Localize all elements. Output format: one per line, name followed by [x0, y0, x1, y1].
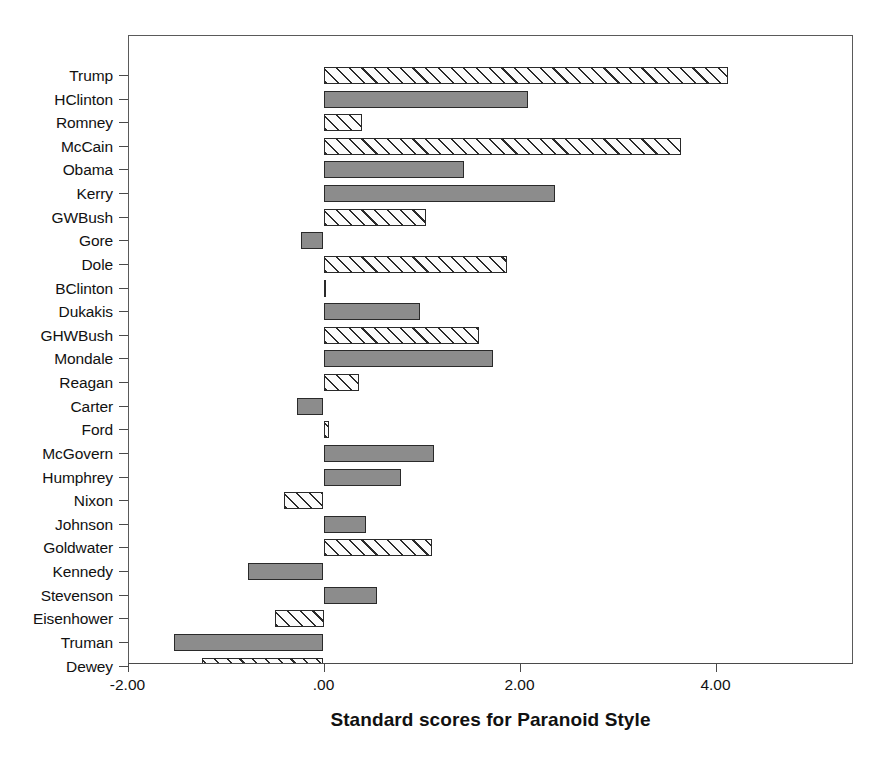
category-label-humphrey: Humphrey	[42, 469, 113, 486]
category-tick	[119, 571, 128, 572]
category-label-row: Nixon	[74, 492, 128, 509]
category-label-reagan: Reagan	[59, 374, 113, 391]
category-label-row: Carter	[71, 398, 128, 415]
bar-ford	[324, 421, 330, 438]
category-label-mondale: Mondale	[54, 350, 113, 367]
category-label-row: Dole	[82, 256, 128, 273]
bar-gwbush	[324, 209, 427, 226]
category-label-gwbush: GWBush	[52, 209, 113, 226]
category-label-row: Johnson	[55, 516, 128, 533]
x-tick	[128, 663, 129, 672]
category-label-ghwbush: GHWBush	[40, 327, 113, 344]
bar-goldwater	[324, 539, 433, 556]
category-tick	[119, 453, 128, 454]
bar-dukakis	[324, 303, 420, 320]
category-label-row: Goldwater	[43, 539, 128, 556]
category-label-truman: Truman	[61, 634, 113, 651]
category-label-nixon: Nixon	[74, 492, 113, 509]
category-label-row: Dukakis	[59, 303, 128, 320]
category-label-row: Humphrey	[42, 469, 128, 486]
category-label-row: McGovern	[42, 445, 128, 462]
category-tick	[119, 429, 128, 430]
bar-bclinton	[324, 280, 326, 297]
bar-kennedy	[248, 563, 323, 580]
x-tick	[324, 663, 325, 672]
category-tick	[119, 99, 128, 100]
bar-romney	[324, 114, 362, 131]
category-tick	[119, 217, 128, 218]
x-tick	[520, 663, 521, 672]
bar-hclinton	[324, 91, 529, 108]
category-label-row: Dewey	[66, 658, 128, 675]
category-label-eisenhower: Eisenhower	[33, 610, 113, 627]
x-axis-title: Standard scores for Paranoid Style	[128, 709, 853, 731]
bar-carter	[297, 398, 323, 415]
category-label-mccain: McCain	[61, 138, 113, 155]
category-tick	[119, 595, 128, 596]
bar-stevenson	[324, 587, 378, 604]
category-tick	[119, 382, 128, 383]
category-label-row: BClinton	[55, 280, 128, 297]
category-tick	[119, 311, 128, 312]
category-axis: TrumpHClintonRomneyMcCainObamaKerryGWBus…	[0, 35, 128, 664]
category-label-row: GHWBush	[40, 327, 128, 344]
category-tick	[119, 240, 128, 241]
category-label-goldwater: Goldwater	[43, 539, 113, 556]
bar-obama	[324, 161, 464, 178]
bar-reagan	[324, 374, 359, 391]
bars-layer	[128, 35, 853, 664]
bar-truman	[174, 634, 324, 651]
category-label-row: Stevenson	[41, 587, 128, 604]
category-label-row: HClinton	[54, 91, 128, 108]
bar-eisenhower	[275, 610, 324, 627]
bar-johnson	[324, 516, 366, 533]
category-tick	[119, 500, 128, 501]
bar-ghwbush	[324, 327, 480, 344]
category-label-row: GWBush	[52, 209, 128, 226]
category-tick	[119, 406, 128, 407]
category-label-row: Ford	[82, 421, 128, 438]
category-label-obama: Obama	[63, 161, 113, 178]
category-label-row: Romney	[56, 114, 128, 131]
category-label-row: Trump	[69, 67, 128, 84]
category-label-row: Mondale	[54, 350, 128, 367]
category-tick	[119, 547, 128, 548]
x-tick-label: 2.00	[504, 676, 534, 694]
category-tick	[119, 642, 128, 643]
category-tick	[119, 193, 128, 194]
bar-dole	[324, 256, 507, 273]
category-tick	[119, 618, 128, 619]
category-label-dole: Dole	[82, 256, 113, 273]
category-label-row: Truman	[61, 634, 128, 651]
category-label-stevenson: Stevenson	[41, 587, 113, 604]
x-axis-line	[128, 663, 853, 664]
category-label-row: Eisenhower	[33, 610, 128, 627]
bar-mondale	[324, 350, 494, 367]
bar-trump	[324, 67, 729, 84]
category-tick	[119, 264, 128, 265]
category-tick	[119, 524, 128, 525]
bar-gore	[301, 232, 324, 249]
category-label-kerry: Kerry	[76, 185, 113, 202]
category-label-gore: Gore	[79, 232, 113, 249]
bar-nixon	[284, 492, 323, 509]
category-label-bclinton: BClinton	[55, 280, 113, 297]
bar-mcgovern	[324, 445, 435, 462]
bar-humphrey	[324, 469, 401, 486]
x-tick-label: .00	[313, 676, 335, 694]
category-tick	[119, 335, 128, 336]
bar-kerry	[324, 185, 555, 202]
category-label-carter: Carter	[71, 398, 113, 415]
category-label-row: Kennedy	[53, 563, 129, 580]
category-tick	[119, 358, 128, 359]
category-label-dewey: Dewey	[66, 658, 113, 675]
category-label-row: McCain	[61, 138, 128, 155]
category-label-mcgovern: McGovern	[42, 445, 113, 462]
category-label-row: Gore	[79, 232, 128, 249]
category-label-ford: Ford	[82, 421, 113, 438]
x-tick-label: -2.00	[110, 676, 145, 694]
category-tick	[119, 288, 128, 289]
category-label-johnson: Johnson	[55, 516, 113, 533]
bar-mccain	[324, 138, 682, 155]
category-label-romney: Romney	[56, 114, 113, 131]
